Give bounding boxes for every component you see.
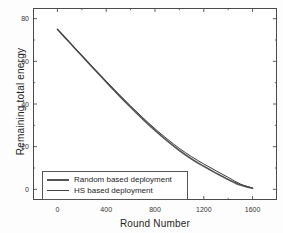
x-axis-title: Round Number — [33, 218, 277, 229]
line-swatch-icon — [47, 190, 69, 191]
y-tick-label: 0 — [9, 186, 29, 193]
chart-legend: Random based deployment HS based deploym… — [42, 171, 188, 200]
y-axis-title: Remaining total energy — [15, 27, 26, 177]
x-tick-label: 1600 — [238, 206, 268, 213]
x-tick-label: 1200 — [189, 206, 219, 213]
x-tick-label: 800 — [140, 206, 170, 213]
y-tick-label: 80 — [9, 15, 29, 22]
chart-figure: 80 60 40 20 0 0 400 800 1200 1600 Round … — [0, 0, 283, 233]
x-tick-label: 400 — [91, 206, 121, 213]
legend-label: Random based deployment — [74, 175, 172, 184]
x-tick-label: 0 — [42, 206, 72, 213]
legend-item-hs: HS based deployment — [47, 185, 183, 196]
line-swatch-icon — [47, 179, 69, 181]
legend-item-random: Random based deployment — [47, 174, 183, 185]
legend-label: HS based deployment — [74, 186, 153, 195]
